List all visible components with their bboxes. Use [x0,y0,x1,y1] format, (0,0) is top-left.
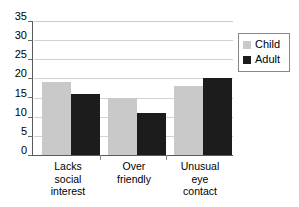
bar-adult-over-friendly[interactable] [137,113,166,155]
bar-chart: 35 30 25 20 15 10 5 0 [0,0,299,207]
bar-child-unusual-eye-contact[interactable] [174,86,203,155]
x-label-line: Lacks [35,160,101,173]
x-label-line: friendly [101,173,167,186]
y-tick-label-30: 30 [15,30,27,41]
y-tick-label-5: 5 [21,126,27,137]
y-tick-label-35: 35 [15,11,27,22]
x-label-unusual-eye-contact: Unusual eye contact [167,160,233,198]
legend-item-adult[interactable]: Adult [243,52,285,67]
bar-adult-lacks-social-interest[interactable] [71,94,100,155]
plot-area [34,21,233,155]
x-axis-labels: Lacks social interest Over friendly Unus… [34,160,233,206]
x-label-line: Over [101,160,167,173]
y-axis-labels: 35 30 25 20 15 10 5 0 [0,16,30,156]
bar-group-over-friendly [108,21,166,155]
x-label-line: contact [167,185,233,198]
x-label-lacks-social-interest: Lacks social interest [35,160,101,198]
adult-swatch-icon [243,56,251,64]
x-axis-line [32,155,233,156]
y-tick-label-15: 15 [15,88,27,99]
x-label-line: interest [35,185,101,198]
y-tick-label-25: 25 [15,49,27,60]
bar-child-over-friendly[interactable] [108,98,137,155]
child-swatch-icon [243,41,251,49]
legend-item-child[interactable]: Child [243,37,285,52]
y-tick-label-20: 20 [15,68,27,79]
bar-adult-unusual-eye-contact[interactable] [203,78,232,155]
x-label-line: social [35,173,101,186]
bar-group-unusual-eye-contact [174,21,232,155]
legend-label-adult: Adult [255,54,280,65]
chart-legend: Child Adult [238,33,290,72]
x-label-line: eye [167,173,233,186]
x-label-line: Unusual [167,160,233,173]
x-label-over-friendly: Over friendly [101,160,167,185]
y-tick-label-0: 0 [21,145,27,156]
bar-group-lacks-social-interest [42,21,100,155]
legend-label-child: Child [255,39,280,50]
y-tick-label-10: 10 [15,107,27,118]
bar-child-lacks-social-interest[interactable] [42,82,71,155]
